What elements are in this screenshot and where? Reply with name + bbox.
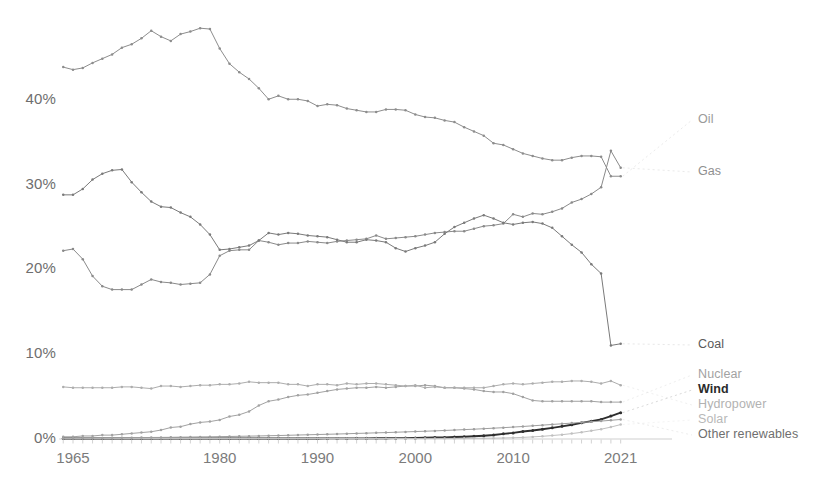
series-point — [492, 427, 495, 430]
series-label-solar[interactable]: Solar — [698, 412, 728, 426]
series-leader-line — [623, 419, 692, 435]
series-point — [492, 391, 495, 394]
series-point — [463, 437, 466, 440]
series-point — [101, 172, 104, 175]
series-point — [414, 430, 417, 433]
series-point — [375, 386, 378, 389]
series-point — [590, 263, 593, 266]
series-point — [189, 216, 192, 219]
series-point — [541, 424, 544, 427]
series-label-gas[interactable]: Gas — [698, 164, 721, 178]
series-point — [571, 400, 574, 403]
series-point — [248, 249, 251, 252]
series-point — [287, 437, 290, 440]
x-axis-tick-label: 1965 — [56, 449, 89, 466]
series-point — [463, 428, 466, 431]
series-point — [434, 232, 437, 235]
series-point — [394, 108, 397, 111]
series-point — [394, 247, 397, 250]
series-point — [473, 130, 476, 133]
series-point — [346, 241, 349, 244]
series-point — [82, 258, 85, 261]
series-point — [91, 62, 94, 65]
series-point — [248, 244, 251, 247]
series-point — [551, 211, 554, 214]
series-point — [189, 385, 192, 388]
series-point — [62, 249, 65, 252]
series-point — [101, 437, 104, 440]
series-point — [561, 433, 564, 436]
series-point — [287, 396, 290, 399]
series-point — [248, 410, 251, 413]
series-point — [512, 382, 515, 385]
series-label-nuclear[interactable]: Nuclear — [698, 367, 742, 381]
series-point — [101, 434, 104, 437]
series-point — [482, 434, 485, 437]
series-point — [62, 386, 65, 389]
series-point — [483, 386, 486, 389]
x-axis-tick-label: 2021 — [604, 449, 637, 466]
series-point — [326, 236, 329, 239]
series-point — [473, 217, 476, 220]
series-point — [336, 437, 339, 440]
series-point — [316, 392, 319, 395]
series-point — [522, 216, 525, 219]
series-point — [277, 95, 280, 98]
series-point — [170, 282, 173, 285]
series-label-hydropower[interactable]: Hydropower — [698, 397, 766, 411]
series-point — [297, 437, 300, 440]
series-point — [248, 78, 251, 81]
series-point — [492, 224, 495, 227]
series-point — [522, 425, 525, 428]
series-point — [619, 343, 622, 346]
series-point — [453, 437, 456, 440]
series-point — [522, 436, 525, 439]
series-point — [82, 386, 85, 389]
series-point — [140, 386, 143, 389]
series-point — [121, 433, 124, 436]
series-point — [238, 435, 241, 438]
series-point — [316, 433, 319, 436]
series-point — [375, 382, 378, 385]
series-point — [316, 437, 319, 440]
series-label-wind[interactable]: Wind — [698, 382, 729, 396]
series-point — [561, 381, 564, 384]
series-point — [531, 382, 534, 385]
series-point — [541, 213, 544, 216]
series-point — [209, 384, 212, 387]
series-point — [160, 281, 163, 284]
series-point — [424, 116, 427, 119]
series-point — [346, 107, 349, 110]
series-point — [541, 435, 544, 438]
series-point — [238, 246, 241, 249]
series-point — [541, 381, 544, 384]
series-label-coal[interactable]: Coal — [698, 337, 724, 351]
series-point — [385, 383, 388, 386]
series-point — [609, 415, 612, 418]
series-point — [297, 242, 300, 245]
series-point — [82, 188, 85, 191]
series-point — [306, 434, 309, 437]
series-point — [473, 428, 476, 431]
series-point — [111, 288, 114, 291]
series-point — [336, 388, 339, 391]
series-label-other-renewables[interactable]: Other renewables — [698, 427, 798, 441]
series-point — [199, 223, 202, 226]
series-point — [541, 222, 544, 225]
series-point — [434, 386, 437, 389]
series-point — [101, 57, 104, 60]
series-point — [62, 66, 65, 69]
series-point — [130, 181, 133, 184]
series-point — [375, 234, 378, 237]
series-leader-line — [623, 390, 692, 413]
series-point — [512, 431, 515, 434]
series-point — [267, 437, 270, 440]
series-point — [434, 437, 437, 440]
series-label-oil[interactable]: Oil — [698, 112, 714, 126]
series-point — [306, 234, 309, 237]
series-point — [199, 436, 202, 439]
series-point — [336, 238, 339, 241]
series-point — [121, 46, 124, 49]
series-point — [610, 380, 613, 383]
series-point — [443, 233, 446, 236]
